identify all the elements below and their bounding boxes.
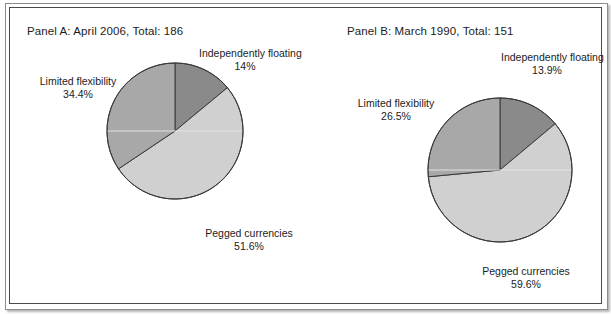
- panel-b-label-pegged-currencies: Pegged currencies 59.6%: [471, 265, 581, 290]
- panel-b-floating-name: Independently floating: [501, 51, 604, 63]
- panel-a-pegged-pct: 51.6%: [195, 240, 303, 253]
- pie-chart-figure: Panel A: April 2006, Total: 186 Independ…: [0, 0, 611, 314]
- panel-a-floating-pct: 14%: [199, 60, 291, 73]
- panel-b-pegged-name: Pegged currencies: [482, 265, 570, 277]
- panel-b-title: Panel B: March 1990, Total: 151: [347, 25, 514, 37]
- panel-a-title: Panel A: April 2006, Total: 186: [27, 25, 183, 37]
- panel-a-label-independently-floating: Independently floating 14%: [199, 47, 291, 72]
- panel-a-limited-pct: 34.4%: [23, 88, 133, 101]
- panel-b-floating-pct: 13.9%: [501, 64, 593, 77]
- panel-b-pegged-pct: 59.6%: [471, 278, 581, 291]
- panel-a-label-pegged-currencies: Pegged currencies 51.6%: [195, 227, 303, 252]
- panel-a-limited-name: Limited flexibility: [40, 75, 116, 87]
- panel-b-limited-pct: 26.5%: [341, 110, 451, 123]
- panel-b-limited-name: Limited flexibility: [358, 97, 434, 109]
- panel-a-floating-name: Independently floating: [199, 47, 302, 59]
- panel-a-pegged-name: Pegged currencies: [205, 227, 293, 239]
- panel-a-label-limited-flexibility: Limited flexibility 34.4%: [23, 75, 133, 100]
- panel-a: Panel A: April 2006, Total: 186 Independ…: [9, 7, 305, 304]
- panel-b-label-independently-floating: Independently floating 13.9%: [501, 51, 593, 76]
- panel-b-label-limited-flexibility: Limited flexibility 26.5%: [341, 97, 451, 122]
- panel-b: Panel B: March 1990, Total: 151 Independ…: [305, 7, 601, 304]
